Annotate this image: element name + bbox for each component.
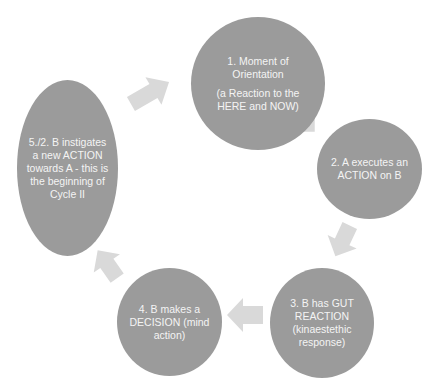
arrow-3-to-4-icon (227, 298, 263, 332)
node-1-title: 1. Moment of Orientation (201, 55, 315, 81)
node-3-text: 3. B has GUT REACTION (kinaestethic resp… (282, 297, 362, 349)
node-5-new-action-cycle-ii: 5./2. B instigates a new ACTION towards … (17, 80, 118, 256)
arrow-5-to-1-icon (123, 68, 177, 118)
arrow-2-to-3-icon (321, 219, 364, 263)
node-1-subtitle: (a Reaction to the HERE and NOW) (201, 87, 315, 113)
node-2-a-executes-action: 2. A executes an ACTION on B (317, 119, 422, 219)
node-4-text: 4. B makes a DECISION (mind action) (129, 303, 210, 342)
node-3-gut-reaction: 3. B has GUT REACTION (kinaestethic resp… (270, 268, 374, 378)
node-5-text: 5./2. B instigates a new ACTION towards … (25, 136, 110, 201)
arrow-4-to-5-icon (85, 241, 131, 287)
node-2-text: 2. A executes an ACTION on B (329, 156, 410, 182)
node-1-moment-of-orientation: 1. Moment of Orientation (a Reaction to … (191, 17, 325, 150)
node-4-decision: 4. B makes a DECISION (mind action) (117, 268, 222, 376)
